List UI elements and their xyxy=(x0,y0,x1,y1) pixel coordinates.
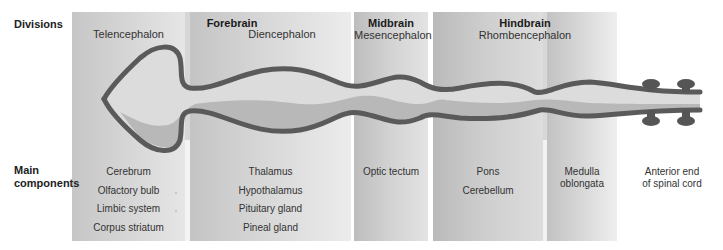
spinal-cord-components: Anterior end of spinal cord xyxy=(622,166,722,190)
component-item: Limbic system xyxy=(97,203,160,222)
telencephalon-components: Cerebrum Olfactory bulb Limbic system Co… xyxy=(72,166,185,240)
component-item: Corpus striatum xyxy=(93,222,164,241)
main-components-row-label: Main components xyxy=(14,164,79,190)
rhombencephalon-label: Rhombencephalon xyxy=(433,29,617,41)
component-item: Cerebellum xyxy=(462,185,513,204)
component-item: Thalamus xyxy=(249,166,293,185)
mesencephalon-label: Mesencephalon xyxy=(354,29,428,41)
medulla-components: Medulla oblongata xyxy=(547,166,617,190)
divisions-row-label: Divisions xyxy=(14,18,63,31)
component-item: of spinal cord xyxy=(622,178,722,190)
component-item: Anterior end xyxy=(622,166,722,178)
mesencephalon-components: Optic tectum xyxy=(354,166,428,185)
component-item: Hypothalamus xyxy=(239,185,303,204)
component-item: Pineal gland xyxy=(243,222,298,241)
component-item: Medulla xyxy=(547,166,617,178)
component-item: Olfactory bulb xyxy=(98,185,160,204)
pons-components: Pons Cerebellum xyxy=(433,166,543,203)
component-item: Optic tectum xyxy=(363,166,419,185)
main-components-label-line2: components xyxy=(14,177,79,190)
diencephalon-components: Thalamus Hypothalamus Pituitary gland Pi… xyxy=(190,166,351,240)
main-components-label-line1: Main xyxy=(14,164,79,177)
component-item: oblongata xyxy=(547,178,617,190)
component-item: Pituitary gland xyxy=(239,203,302,222)
midbrain-label: Midbrain xyxy=(354,17,428,29)
neural-tube-lumen xyxy=(104,47,700,150)
component-item: Cerebrum xyxy=(106,166,150,185)
telencephalon-label: Telencephalon xyxy=(72,28,185,40)
hindbrain-label: Hindbrain xyxy=(433,17,617,29)
component-item: Pons xyxy=(477,166,500,185)
diencephalon-label: Diencephalon xyxy=(222,28,342,40)
